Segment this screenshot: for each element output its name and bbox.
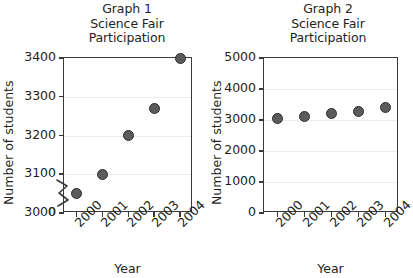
gridline [64,97,191,98]
gridline [64,174,191,175]
gridline [264,120,397,121]
y-axis-break-icon [55,178,73,208]
two-chart-figure: Graph 1 Science Fair Participation Year … [0,0,413,278]
y-axis-tick [59,135,64,137]
y-axis-tick [259,212,264,214]
y-axis-tick [259,181,264,183]
y-axis-tick [259,119,264,121]
data-point-marker [380,102,391,113]
y-axis-tick [259,150,264,152]
data-point-marker [175,53,186,64]
chart-panel-graph-2: Graph 2 Science Fair Participation Year … [206,0,413,278]
y-axis-tick-label: 3400 [8,51,56,64]
y-axis-tick-label: 3100 [8,167,56,180]
chart-title-graph-1: Graph 1 Science Fair Participation [58,2,196,46]
y-axis-tick-label: 4000 [206,82,256,95]
data-point-marker [272,113,283,124]
y-axis-tick-label: 3200 [8,128,56,141]
y-axis-tick-label: 3000 [206,113,256,126]
plot-area-graph-1 [63,57,192,212]
y-axis-tick-label: 5000 [206,51,256,64]
y-axis-tick [59,173,64,175]
y-axis-tick [59,57,64,59]
gridline [264,151,397,152]
data-point-marker [149,103,160,114]
data-point-marker [326,108,337,119]
data-point-marker [353,106,364,117]
data-point-marker [123,130,134,141]
chart-title-line-1: Graph 1 [58,2,196,17]
y-axis-tick-label: 2000 [206,144,256,157]
chart-title-graph-2: Graph 2 Science Fair Participation [258,2,398,46]
y-axis-tick-label: 3300 [8,90,56,103]
chart-title-line-3: Participation [58,31,196,46]
y-axis-tick-label: 0 [206,206,256,219]
y-axis-tick [259,57,264,59]
x-axis-title-graph-1: Year [63,262,192,275]
y-axis-tick [59,212,64,214]
chart-title-line-1: Graph 2 [258,2,398,17]
chart-panel-graph-1: Graph 1 Science Fair Participation Year … [0,0,206,278]
y-axis-tick-label: 3000 [8,206,56,219]
chart-title-line-2: Science Fair [258,17,398,32]
data-point-marker [97,169,108,180]
y-axis-tick-label: 1000 [206,175,256,188]
gridline [264,182,397,183]
chart-title-line-2: Science Fair [58,17,196,32]
chart-title-line-3: Participation [258,31,398,46]
y-axis-tick [59,96,64,98]
x-axis-title-graph-2: Year [263,262,398,275]
gridline [264,89,397,90]
y-axis-tick [259,88,264,90]
plot-area-graph-2 [263,57,398,212]
data-point-marker [71,188,82,199]
